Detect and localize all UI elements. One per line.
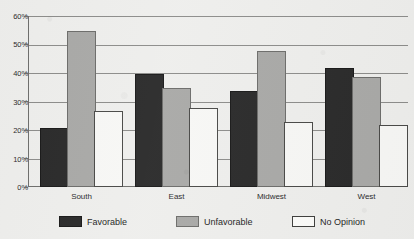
bar-group-west [325,16,408,187]
x-tick-label-midwest: Midwest [230,192,313,201]
y-tick [24,187,28,188]
bar-midwest-favorable[interactable] [230,91,259,187]
y-tick-label: 10% [2,155,28,164]
bar-south-favorable[interactable] [40,128,69,187]
legend-item-favorable[interactable]: Favorable [59,216,127,227]
chart-legend: Favorable Unfavorable No Opinion [0,216,414,232]
y-axis-line [28,16,29,187]
legend-item-noopinion[interactable]: No Opinion [292,216,365,227]
bar-midwest-unfavorable[interactable] [257,51,286,187]
legend-item-unfavorable[interactable]: Unfavorable [176,216,253,227]
bar-west-unfavorable[interactable] [352,77,381,187]
x-tick-label-west: West [325,192,408,201]
plot-area [28,16,408,187]
bar-south-unfavorable[interactable] [67,31,96,187]
legend-swatch-noopinion-icon [292,216,315,227]
bar-east-favorable[interactable] [135,74,164,187]
legend-label-noopinion: No Opinion [320,217,365,227]
bar-east-unfavorable[interactable] [162,88,191,187]
legend-swatch-unfavorable-icon [176,216,199,227]
legend-swatch-favorable-icon [59,216,82,227]
y-tick-label: 30% [2,98,28,107]
x-tick-label-east: East [135,192,218,201]
bar-midwest-nooopinion[interactable] [284,122,313,187]
x-tick-label-south: South [40,192,123,201]
bar-east-nooopinion[interactable] [189,108,218,187]
bar-chart-screenshot: 60% 50% 40% 30% 20% 10% 0% [0,0,414,239]
bar-west-nooopinion[interactable] [379,125,408,187]
legend-label-unfavorable: Unfavorable [204,217,253,227]
bar-west-favorable[interactable] [325,68,354,187]
bar-group-east [135,16,218,187]
bar-group-midwest [230,16,313,187]
legend-label-favorable: Favorable [87,217,127,227]
bar-south-nooopinion[interactable] [94,111,123,187]
bar-group-south [40,16,123,187]
